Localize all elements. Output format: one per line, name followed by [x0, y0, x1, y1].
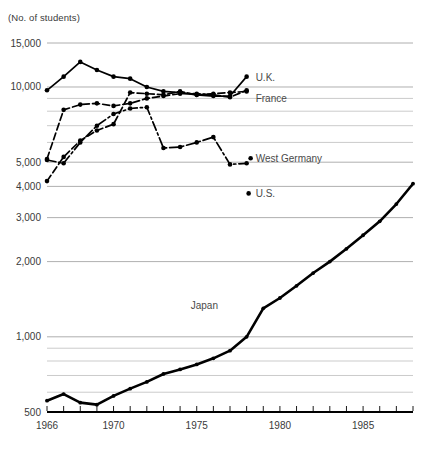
- y-axis-tick-label: 1,000: [16, 331, 41, 342]
- series-marker-france: [95, 101, 100, 106]
- series-marker-west-germany: [194, 140, 199, 145]
- series-marker-france: [228, 95, 233, 100]
- series-marker-japan: [145, 380, 149, 384]
- series-line-u-k-: [47, 62, 247, 96]
- series-marker-u-k-: [128, 76, 133, 81]
- series-marker-japan: [295, 284, 299, 288]
- series-marker-japan: [345, 247, 349, 251]
- y-axis-tick-label-group: 15,00010,0005,0004,0003,0002,0001,000500: [10, 38, 41, 418]
- series-marker-u-k-: [78, 60, 83, 65]
- series-marker-u-s-: [111, 122, 116, 127]
- series-marker-west-germany: [244, 161, 249, 166]
- series-marker-u-s-: [128, 90, 133, 95]
- series-marker-france: [128, 101, 133, 106]
- series-marker-japan: [328, 260, 332, 264]
- series-marker-u-k-: [244, 74, 249, 79]
- series-marker-u-s-: [178, 89, 183, 94]
- series-marker-japan: [261, 306, 265, 310]
- series-marker-france: [61, 108, 66, 113]
- series-marker-japan: [128, 387, 132, 391]
- series-marker-japan: [378, 219, 382, 223]
- series-marker-japan: [45, 399, 49, 403]
- series-marker-u-s-: [78, 138, 83, 143]
- series-marker-west-germany: [111, 112, 116, 117]
- series-marker-u-s-: [61, 155, 66, 160]
- series-marker-japan: [95, 403, 99, 407]
- x-axis-tick-label: 1985: [352, 420, 375, 431]
- x-axis-tick-label-group: 19661970197519801985: [36, 420, 375, 431]
- series-marker-west-germany: [178, 145, 183, 150]
- series-marker-u-s-: [95, 128, 100, 133]
- series-endpoint-marker: [248, 156, 253, 161]
- series-marker-west-germany: [95, 123, 100, 128]
- y-axis-tick-label: 4,000: [16, 181, 41, 192]
- series-marker-u-s-: [244, 89, 249, 94]
- series-label-japan: Japan: [191, 300, 218, 311]
- series-marker-u-s-: [145, 91, 150, 96]
- y-axis-tick-label: 15,000: [10, 38, 41, 49]
- series-marker-u-s-: [211, 91, 216, 96]
- y-axis-tick-label: 5,000: [16, 157, 41, 168]
- series-marker-u-s-: [45, 179, 50, 184]
- series-marker-west-germany: [211, 135, 216, 140]
- y-axis-tick-label: 500: [24, 407, 41, 418]
- series-marker-u-s-: [228, 90, 233, 95]
- series-line-group: [47, 62, 413, 405]
- series-marker-france: [78, 102, 83, 107]
- series-marker-u-k-: [45, 88, 50, 93]
- series-marker-japan: [411, 182, 415, 186]
- series-label-u-s-: U.S.: [256, 188, 275, 199]
- series-marker-japan: [112, 394, 116, 398]
- series-marker-west-germany: [128, 106, 133, 111]
- y-axis-tick-label: 10,000: [10, 81, 41, 92]
- series-line-japan: [47, 184, 413, 405]
- series-marker-group: [45, 60, 415, 407]
- x-axis-tick-label: 1970: [102, 420, 125, 431]
- series-marker-u-s-: [161, 93, 166, 98]
- series-marker-japan: [311, 271, 315, 275]
- series-endpoint-marker: [246, 191, 251, 196]
- series-marker-japan: [228, 349, 232, 353]
- series-marker-france: [111, 104, 116, 109]
- x-axis-tick-label: 1980: [269, 420, 292, 431]
- series-label-u-k-: U.K.: [256, 72, 275, 83]
- series-marker-japan: [245, 335, 249, 339]
- series-line-west-germany: [47, 107, 247, 164]
- series-label-france: France: [256, 93, 288, 104]
- series-label-group: U.K.FranceWest GermanyU.S.Japan: [191, 72, 322, 312]
- series-marker-japan: [278, 296, 282, 300]
- y-axis-tick-label: 3,000: [16, 212, 41, 223]
- y-axis-tick-label: 2,000: [16, 256, 41, 267]
- series-marker-west-germany: [45, 158, 50, 163]
- series-marker-u-k-: [95, 68, 100, 73]
- series-marker-japan: [394, 202, 398, 206]
- x-axis-tick-group: [47, 406, 413, 411]
- series-marker-japan: [162, 372, 166, 376]
- series-marker-west-germany: [161, 146, 166, 151]
- series-marker-u-k-: [145, 85, 150, 90]
- series-marker-west-germany: [145, 105, 150, 110]
- series-label-west-germany: West Germany: [256, 153, 322, 164]
- series-marker-u-k-: [111, 74, 116, 79]
- series-marker-japan: [195, 363, 199, 367]
- x-axis-tick-label: 1975: [186, 420, 209, 431]
- x-axis-tick-label: 1966: [36, 420, 59, 431]
- chart-container: (No. of students) 15,00010,0005,0004,000…: [0, 0, 429, 456]
- series-marker-france: [145, 96, 150, 101]
- series-marker-u-s-: [194, 93, 199, 98]
- chart-plot-area: 15,00010,0005,0004,0003,0002,0001,000500…: [0, 0, 429, 456]
- series-marker-west-germany: [228, 162, 233, 167]
- series-marker-japan: [211, 356, 215, 360]
- series-marker-west-germany: [61, 161, 66, 166]
- series-marker-u-k-: [61, 74, 66, 79]
- series-marker-japan: [178, 368, 182, 372]
- series-marker-japan: [78, 401, 82, 405]
- series-marker-japan: [361, 233, 365, 237]
- series-marker-japan: [62, 392, 66, 396]
